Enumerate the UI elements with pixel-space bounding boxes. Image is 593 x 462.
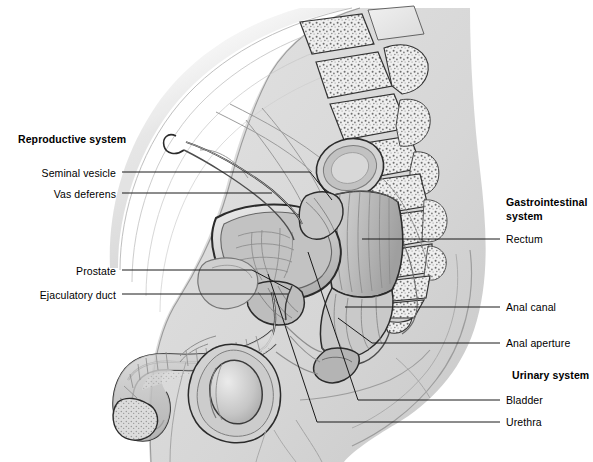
heading-reproductive-system: Reproductive system: [18, 133, 126, 146]
sagittal-pelvis-illustration: [0, 0, 593, 462]
label-anal-aperture: Anal aperture: [506, 337, 570, 350]
heading-urinary-system: Urinary system: [512, 369, 589, 382]
heading-gastrointestinal-system-line2: system: [506, 210, 543, 223]
label-urethra: Urethra: [506, 416, 542, 429]
label-vas-deferens: Vas deferens: [0, 188, 122, 201]
label-bladder: Bladder: [506, 394, 543, 407]
label-prostate: Prostate: [0, 265, 122, 278]
anatomy-figure: Reproductive system Seminal vesicle Vas …: [0, 0, 593, 462]
label-ejaculatory-duct: Ejaculatory duct: [0, 289, 122, 302]
label-seminal-vesicle: Seminal vesicle: [0, 167, 122, 180]
label-anal-canal: Anal canal: [506, 301, 556, 314]
heading-gastrointestinal-system-line1: Gastrointestinal: [506, 196, 588, 209]
label-rectum: Rectum: [506, 233, 543, 246]
